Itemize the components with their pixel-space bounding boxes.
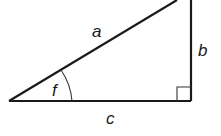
- label-b: b: [198, 41, 207, 60]
- right-angle-marker: [177, 87, 191, 101]
- right-triangle-diagram: a b c f: [0, 0, 221, 136]
- side-a-hypotenuse: [9, 0, 177, 101]
- label-a: a: [92, 22, 101, 41]
- label-f: f: [52, 81, 59, 100]
- label-c: c: [106, 109, 115, 128]
- angle-f-arc: [61, 70, 72, 101]
